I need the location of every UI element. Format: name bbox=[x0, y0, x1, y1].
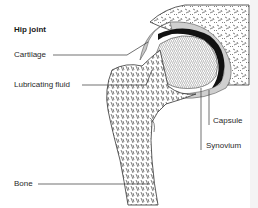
label-capsule: Capsule bbox=[213, 116, 242, 126]
diagram-title: Hip joint bbox=[14, 25, 46, 35]
label-bone: Bone bbox=[14, 179, 33, 189]
label-cartilage: Cartilage bbox=[14, 50, 46, 60]
label-lubricating-fluid: Lubricating fluid bbox=[14, 80, 70, 90]
hip-joint-diagram: Hip joint Cartilage Lubricating fluid Ca… bbox=[0, 0, 258, 208]
label-synovium: Synovium bbox=[206, 141, 241, 151]
